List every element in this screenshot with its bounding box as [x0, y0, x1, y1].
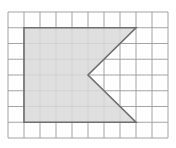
- grid-diagram: [0, 0, 176, 148]
